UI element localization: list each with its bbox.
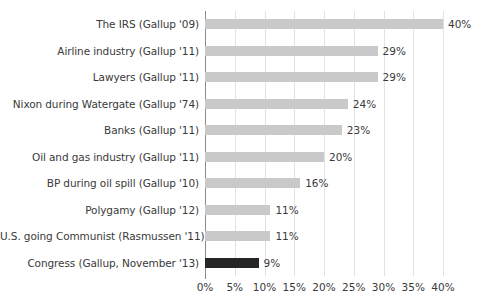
- bar: [205, 231, 270, 241]
- bar-container: 9%: [205, 258, 280, 268]
- bar-row: Banks (Gallup '11)23%: [0, 117, 499, 144]
- x-tick-label: 35%: [402, 281, 425, 293]
- category-label: Nixon during Watergate (Gallup '74): [0, 98, 199, 110]
- bar-row: Airline industry (Gallup '11)29%: [0, 38, 499, 65]
- bar-value-label: 23%: [347, 124, 370, 136]
- bar-container: 40%: [205, 19, 471, 29]
- bar: [205, 178, 300, 188]
- x-tick-label: 10%: [253, 281, 276, 293]
- bar-rows: The IRS (Gallup '09)40%Airline industry …: [0, 11, 499, 276]
- bar-container: 11%: [205, 205, 299, 215]
- bar-container: 29%: [205, 72, 406, 82]
- bar-value-label: 16%: [305, 177, 328, 189]
- bar: [205, 46, 378, 56]
- x-tick-label: 25%: [342, 281, 365, 293]
- bar-container: 16%: [205, 178, 329, 188]
- x-axis: 0%5%10%15%20%25%30%35%40%: [205, 276, 443, 302]
- bar-value-label: 29%: [383, 45, 406, 57]
- bar: [205, 125, 342, 135]
- bar-container: 29%: [205, 46, 406, 56]
- category-label: Polygamy (Gallup '12): [0, 204, 199, 216]
- x-tick-mark: [205, 276, 206, 279]
- bar-value-label: 29%: [383, 71, 406, 83]
- bar: [205, 99, 348, 109]
- bar-value-label: 11%: [275, 230, 298, 242]
- category-label: Oil and gas industry (Gallup '11): [0, 151, 199, 163]
- bar: [205, 205, 270, 215]
- bar: [205, 19, 443, 29]
- category-label: BP during oil spill (Gallup '10): [0, 177, 199, 189]
- bar-value-label: 9%: [264, 257, 281, 269]
- bar-value-label: 11%: [275, 204, 298, 216]
- bar-container: 11%: [205, 231, 299, 241]
- x-tick-label: 30%: [372, 281, 395, 293]
- bar-row: Nixon during Watergate (Gallup '74)24%: [0, 91, 499, 118]
- category-label: Banks (Gallup '11): [0, 124, 199, 136]
- category-label: Congress (Gallup, November '13): [0, 257, 199, 269]
- category-label: U.S. going Communist (Rasmussen '11): [0, 230, 199, 242]
- x-tick-label: 5%: [226, 281, 243, 293]
- bar-container: 23%: [205, 125, 370, 135]
- bar-chart: The IRS (Gallup '09)40%Airline industry …: [0, 0, 499, 304]
- x-tick-label: 40%: [431, 281, 454, 293]
- bar-row: Oil and gas industry (Gallup '11)20%: [0, 144, 499, 171]
- bar-row: Lawyers (Gallup '11)29%: [0, 64, 499, 91]
- bar-value-label: 24%: [353, 98, 376, 110]
- bar-container: 20%: [205, 152, 352, 162]
- bar-row: BP during oil spill (Gallup '10)16%: [0, 170, 499, 197]
- bar-row: Congress (Gallup, November '13)9%: [0, 250, 499, 277]
- x-tick-label: 15%: [283, 281, 306, 293]
- bar-row: The IRS (Gallup '09)40%: [0, 11, 499, 38]
- bar-value-label: 40%: [448, 18, 471, 30]
- category-label: Lawyers (Gallup '11): [0, 71, 199, 83]
- category-label: Airline industry (Gallup '11): [0, 45, 199, 57]
- bar-highlighted: [205, 258, 259, 268]
- bar-row: U.S. going Communist (Rasmussen '11)11%: [0, 223, 499, 250]
- bar-value-label: 20%: [329, 151, 352, 163]
- plot-area: The IRS (Gallup '09)40%Airline industry …: [0, 0, 499, 304]
- x-tick-label: 0%: [197, 281, 214, 293]
- bar: [205, 152, 324, 162]
- bar-row: Polygamy (Gallup '12)11%: [0, 197, 499, 224]
- category-label: The IRS (Gallup '09): [0, 18, 199, 30]
- x-tick-label: 20%: [312, 281, 335, 293]
- bar: [205, 72, 378, 82]
- bar-container: 24%: [205, 99, 376, 109]
